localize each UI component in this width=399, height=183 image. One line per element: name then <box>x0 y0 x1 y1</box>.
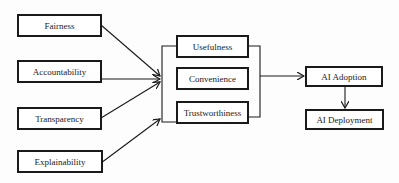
right-bracket <box>248 46 260 117</box>
diagram-canvas: Fairness Accountability Transparency Exp… <box>0 0 399 183</box>
outcome-label: AI Adoption <box>321 72 366 82</box>
factor-box-accountability: Accountability <box>17 60 102 83</box>
arrow-fairness <box>101 25 160 76</box>
factor-box-explainability: Explainability <box>17 150 103 173</box>
mediator-label: Trustworthiness <box>184 108 242 118</box>
arrow-explainability <box>101 119 160 163</box>
mediator-label: Convenience <box>189 74 236 84</box>
mediator-box-usefulness: Usefulness <box>176 35 249 58</box>
factor-label: Fairness <box>45 21 75 31</box>
mediator-label: Usefulness <box>193 42 233 52</box>
outcome-label: AI Deployment <box>316 115 372 125</box>
factor-box-transparency: Transparency <box>17 107 102 130</box>
factor-box-fairness: Fairness <box>17 14 102 37</box>
factor-label: Explainability <box>35 157 86 167</box>
outcome-box-ai-deployment: AI Deployment <box>305 109 384 130</box>
left-bracket <box>162 46 176 122</box>
arrow-transparency <box>101 82 160 118</box>
mediator-box-trustworthiness: Trustworthiness <box>176 101 249 124</box>
factor-label: Transparency <box>35 114 84 124</box>
factor-label: Accountability <box>33 67 87 77</box>
mediator-box-convenience: Convenience <box>176 67 249 90</box>
outcome-box-ai-adoption: AI Adoption <box>305 66 383 87</box>
